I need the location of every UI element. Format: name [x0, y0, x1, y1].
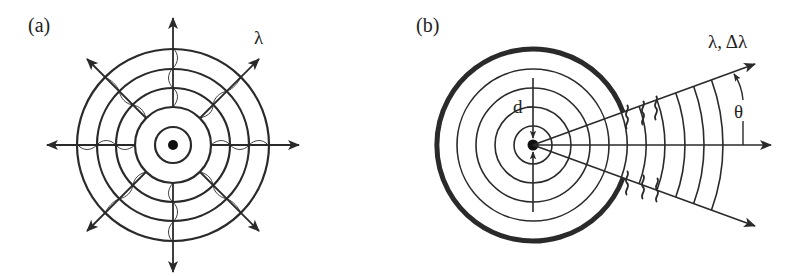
panel-b — [437, 49, 771, 241]
panel-a-label: (a) — [28, 14, 50, 37]
point-source — [168, 140, 178, 150]
figure-canvas — [0, 0, 802, 276]
panel-a — [47, 18, 299, 272]
panel-b-label: (b) — [416, 14, 439, 37]
theta-label: θ — [734, 101, 743, 123]
wavelength-spread-label: λ, Δλ — [708, 31, 747, 53]
source-size-label: d — [513, 96, 523, 118]
wavelength-symbol-a: λ — [254, 27, 263, 49]
wave-squiggles — [626, 96, 658, 202]
emission-rays — [533, 64, 771, 226]
